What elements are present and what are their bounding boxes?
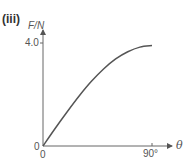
x-origin-label: 0 (40, 149, 46, 160)
data-curve (43, 46, 152, 146)
y-origin-label: 0 (34, 141, 40, 152)
y-tick-label-max: 4.0 (25, 37, 39, 48)
y-axis-label: F/N (28, 20, 44, 31)
x-axis-label: θ (176, 139, 183, 152)
x-tick-label-max: 90° (143, 148, 158, 159)
